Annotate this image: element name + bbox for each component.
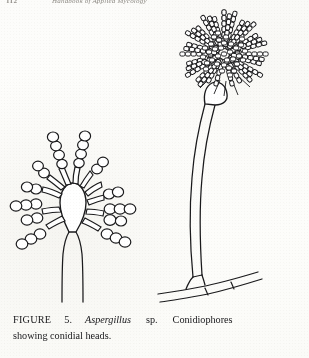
conidial-chain <box>104 204 136 214</box>
conidial-chain <box>21 182 41 194</box>
caption-subject: Conidiophores <box>173 313 233 328</box>
conidial-chain <box>16 229 46 249</box>
running-header-title: Handbook of Applied Mycology <box>52 0 147 5</box>
basal-hypha <box>158 272 262 302</box>
conidial-chain <box>10 199 42 211</box>
caption-genus-name: Aspergillus <box>85 313 131 328</box>
figure-illustration: .ln{fill:none;stroke:#1a1a1c;stroke-widt… <box>0 6 309 306</box>
left-specimen <box>10 131 136 302</box>
right-specimen <box>158 10 268 302</box>
conidial-chain <box>21 213 43 225</box>
page-folio-number: 112 <box>6 0 17 5</box>
caption-species-abbrev: sp. <box>146 313 158 328</box>
figure-caption: FIGURE 5. Aspergillus sp. Conidiophores … <box>13 313 299 343</box>
conidial-chain <box>101 229 131 247</box>
conidial-chain <box>74 131 91 168</box>
conidial-head <box>180 10 268 96</box>
conidial-chain <box>104 215 127 226</box>
conidial-chain <box>33 161 50 178</box>
conidial-chain <box>92 157 109 174</box>
conidial-chain <box>103 187 123 199</box>
vesicle <box>60 183 86 232</box>
caption-figure-word: FIGURE <box>13 313 51 328</box>
conidial-chain <box>47 132 67 169</box>
caption-second-line: showing conidial heads. <box>13 329 299 344</box>
stipe <box>62 232 83 302</box>
caption-figure-number: 5. <box>64 313 72 328</box>
stipe <box>190 104 215 277</box>
